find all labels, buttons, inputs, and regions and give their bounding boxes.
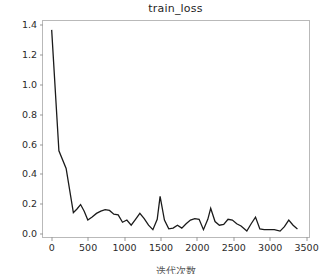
x-tick-mark	[88, 237, 89, 241]
x-tick-mark	[233, 237, 234, 241]
x-tick-mark	[306, 237, 307, 241]
plot-area: 0.00.20.40.60.81.01.21.4 050010001500200…	[42, 20, 310, 238]
train-loss-line-plot	[43, 21, 309, 237]
x-tick-label: 0	[49, 243, 55, 253]
x-tick-mark	[124, 237, 125, 241]
x-tick-label: 3500	[295, 243, 319, 253]
y-tick-label: 0.8	[22, 110, 37, 120]
x-tick-label: 2500	[222, 243, 246, 253]
y-tick-label: 1.4	[22, 20, 37, 30]
x-tick-mark	[160, 237, 161, 241]
y-tick-mark	[40, 84, 44, 85]
x-tick-mark	[270, 237, 271, 241]
y-tick-mark	[40, 233, 44, 234]
chart-title: train_loss	[42, 2, 309, 16]
figure-canvas: train_loss 0.00.20.40.60.81.01.21.4 0500…	[0, 0, 331, 274]
y-tick-label: 0.2	[22, 199, 37, 209]
x-tick-label: 1000	[112, 243, 136, 253]
train-loss-series-line	[52, 30, 298, 231]
x-tick-mark	[51, 237, 52, 241]
y-tick-mark	[40, 55, 44, 56]
y-tick-label: 0.6	[22, 140, 37, 150]
y-tick-mark	[40, 204, 44, 205]
x-tick-label: 2000	[185, 243, 209, 253]
y-tick-label: 0.4	[22, 169, 37, 179]
x-tick-label: 1500	[149, 243, 173, 253]
y-tick-mark	[40, 174, 44, 175]
x-tick-mark	[197, 237, 198, 241]
x-axis-caption-clipped: 迭代次数	[42, 266, 310, 274]
y-tick-label: 1.2	[22, 50, 37, 60]
y-tick-mark	[40, 25, 44, 26]
y-tick-mark	[40, 144, 44, 145]
x-tick-label: 3000	[258, 243, 282, 253]
y-tick-mark	[40, 114, 44, 115]
y-tick-label: 1.0	[22, 80, 37, 90]
y-tick-label: 0.0	[22, 229, 37, 239]
x-tick-label: 500	[79, 243, 97, 253]
